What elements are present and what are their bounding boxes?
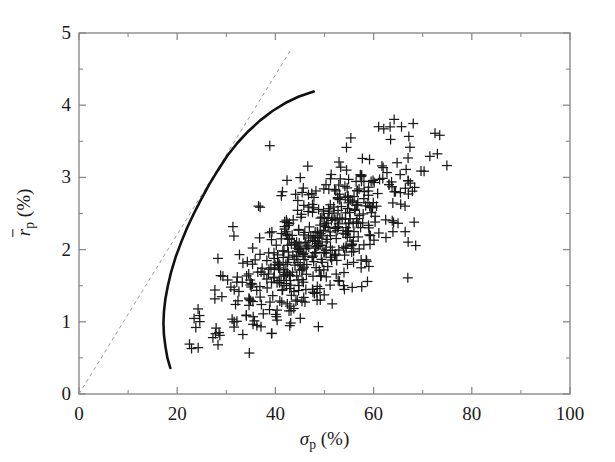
scatter-point <box>396 199 406 209</box>
scatter-point <box>347 282 357 292</box>
scatter-point <box>244 269 254 279</box>
scatter-point <box>232 272 242 282</box>
scatter-point <box>248 259 258 269</box>
scatter-point <box>286 318 296 328</box>
scatter-point <box>193 343 203 353</box>
scatter-point <box>392 158 402 168</box>
scatter-point <box>346 133 356 143</box>
scatter-series-individual-assets <box>184 114 451 358</box>
scatter-point <box>326 170 336 180</box>
scatter-point <box>268 291 278 301</box>
scatter-point <box>284 306 294 316</box>
scatter-point <box>331 234 341 244</box>
scatter-point <box>389 217 399 227</box>
scatter-point <box>258 309 268 319</box>
scatter-point <box>299 200 309 210</box>
scatter-point <box>397 122 407 132</box>
scatter-point <box>362 276 372 286</box>
scatter-point <box>356 172 366 182</box>
scatter-point <box>364 261 374 271</box>
scatter-point <box>267 227 277 237</box>
scatter-point <box>241 310 251 320</box>
scatter-point <box>432 149 442 159</box>
scatter-point <box>310 288 320 298</box>
scatter-point <box>217 292 227 302</box>
scatter-point <box>229 317 239 327</box>
scatter-point <box>395 170 405 180</box>
plot-canvas <box>0 0 615 462</box>
scatter-point <box>387 216 397 226</box>
scatter-point <box>304 222 314 232</box>
scatter-point <box>255 233 265 243</box>
scatter-point <box>387 177 397 187</box>
scatter-point <box>388 227 398 237</box>
scatter-point <box>325 174 335 184</box>
scatter-point <box>275 296 285 306</box>
scatter-point <box>265 305 275 315</box>
scatter-point <box>295 313 305 323</box>
scatter-point <box>285 321 295 331</box>
scatter-point <box>266 329 276 339</box>
capital-market-line <box>79 51 290 394</box>
scatter-point <box>321 180 331 190</box>
scatter-point <box>238 258 248 268</box>
scatter-point <box>210 285 220 295</box>
scatter-point <box>405 142 415 152</box>
x-tick-label: 80 <box>462 403 481 425</box>
scatter-point <box>335 213 345 223</box>
x-tick-label: 100 <box>556 403 585 425</box>
scatter-point <box>401 164 411 174</box>
y-tick-label: 3 <box>45 166 71 188</box>
scatter-point <box>248 243 258 253</box>
scatter-point <box>353 232 363 242</box>
y-axis-title: rp (%) <box>13 188 38 235</box>
scatter-point <box>405 178 415 188</box>
scatter-point <box>381 233 391 243</box>
x-tick-label: 20 <box>168 403 187 425</box>
scatter-point <box>377 161 387 171</box>
scatter-point <box>403 176 413 186</box>
x-tick-label: 60 <box>364 403 383 425</box>
scatter-point <box>234 250 244 260</box>
scatter-point <box>435 130 445 140</box>
scatter-point <box>316 271 326 281</box>
scatter-point <box>357 282 367 292</box>
scatter-point <box>228 222 238 232</box>
scatter-point <box>368 175 378 185</box>
scatter-point <box>298 183 308 193</box>
scatter-point <box>262 283 272 293</box>
scatter-point <box>365 154 375 164</box>
scatter-point <box>213 340 223 350</box>
scatter-point <box>256 300 266 310</box>
scatter-point <box>395 188 405 198</box>
scatter-point <box>265 228 275 238</box>
scatter-point <box>408 119 418 129</box>
scatter-point <box>374 122 384 132</box>
scatter-point <box>362 256 372 266</box>
scatter-point <box>210 294 220 304</box>
scatter-point <box>187 344 197 354</box>
scatter-point <box>291 189 301 199</box>
scatter-point <box>356 255 366 265</box>
scatter-point <box>237 277 247 287</box>
scatter-point <box>425 151 435 161</box>
scatter-point <box>430 128 440 138</box>
x-tick-label: 40 <box>266 403 285 425</box>
scatter-point <box>271 309 281 319</box>
scatter-point <box>184 339 194 349</box>
scatter-point <box>238 330 248 340</box>
scatter-point <box>227 314 237 324</box>
scatter-point <box>229 231 239 241</box>
scatter-point <box>364 223 374 233</box>
scatter-point <box>255 249 265 259</box>
scatter-point <box>327 299 337 309</box>
scatter-point <box>400 227 410 237</box>
x-tick-label: 0 <box>74 403 84 425</box>
scatter-point <box>349 257 359 267</box>
scatter-point <box>213 253 223 263</box>
scatter-point <box>277 285 287 295</box>
scatter-point <box>294 225 304 235</box>
x-axis-title: σp (%) <box>300 428 349 453</box>
scatter-point <box>193 304 203 314</box>
scatter-point <box>297 187 307 197</box>
